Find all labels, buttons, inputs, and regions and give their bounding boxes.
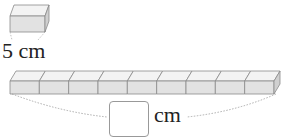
dotted-brace-right: [187, 94, 276, 117]
single-block-length-label: 5 cm: [2, 40, 45, 62]
answer-unit-label: cm: [154, 104, 181, 126]
answer-input-box[interactable]: [109, 101, 149, 137]
single-block: [10, 5, 49, 40]
block-row: [10, 71, 280, 94]
dotted-brace-left: [12, 94, 107, 117]
